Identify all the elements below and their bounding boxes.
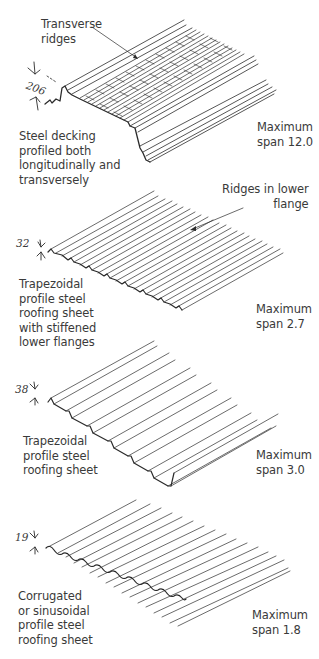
description-trapezoidal-stiffened: Trapezoidal profile steel roofing sheet … xyxy=(19,277,96,350)
description-trapezoidal: Trapezoidal profile steel roofing sheet xyxy=(23,434,98,478)
depth-dimension-32: 32 xyxy=(16,237,29,249)
depth-dimension-38: 38 xyxy=(15,383,28,395)
span-steel-decking: Maximum span 12.0 xyxy=(257,120,313,149)
span-trapezoidal: Maximum span 3.0 xyxy=(256,448,312,477)
description-corrugated: Corrugated or sinusoidal profile steel r… xyxy=(18,589,93,647)
callout-transverse-ridges: Transverse ridges xyxy=(41,17,102,46)
span-trapezoidal-stiffened: Maximum span 2.7 xyxy=(256,302,312,331)
description-steel-decking: Steel decking profiled both longitudinal… xyxy=(19,129,120,187)
callout-ridges-lower-flange: Ridges in lower flange xyxy=(222,182,309,211)
span-corrugated: Maximum span 1.8 xyxy=(252,608,308,637)
depth-dimension-19: 19 xyxy=(15,531,28,543)
